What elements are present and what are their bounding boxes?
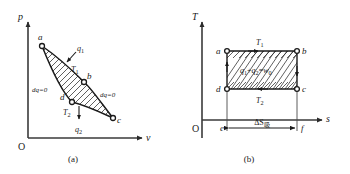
panel-b-point-c-label: c: [302, 84, 306, 94]
panel-a-T1-label: T1: [71, 65, 79, 75]
panel-b-point-d: [225, 87, 230, 92]
panel-b-origin-label: O: [192, 123, 199, 134]
panel-a-q1-label: q1: [77, 44, 84, 54]
panel-b-point-f-label: f: [301, 123, 305, 133]
panel-b-T1-label: T1: [256, 38, 264, 48]
panel-b-point-a-label: a: [216, 46, 221, 56]
panel-b-y-axis-label: T: [192, 11, 199, 22]
panel-a-group: p v O: [17, 0, 151, 174]
panel-b-group: T s O: [192, 11, 330, 164]
panel-a-point-b-label: b: [87, 71, 92, 81]
panel-b-energy-balance-label: q1+q2=w0: [240, 66, 272, 76]
panel-a-point-d: [70, 100, 75, 105]
panel-b-caption: (b): [244, 154, 255, 164]
panel-a-T2-label: T2: [63, 108, 71, 118]
panel-b-point-e-label: e: [220, 123, 224, 133]
panel-b-T2-label: T2: [256, 96, 264, 106]
panel-b-point-c: [295, 87, 300, 92]
panel-b-point-a: [225, 49, 230, 54]
panel-a-q1-arrow: [67, 52, 76, 62]
panel-a-point-c: [111, 116, 116, 121]
panel-a-x-axis-label: v: [146, 132, 151, 143]
panel-a-point-d-label: d: [60, 92, 65, 102]
panel-a-point-c-label: c: [117, 115, 121, 125]
panel-b-point-b-label: b: [302, 46, 307, 56]
panel-b-point-d-label: d: [216, 84, 221, 94]
panel-a-q2-label: q2: [75, 125, 82, 135]
panel-b-x-axis-label: s: [326, 113, 330, 124]
figure-canvas: p v O: [0, 0, 350, 174]
thermodynamics-figure: p v O: [0, 0, 350, 174]
panel-a-process-bc-adiabat: [84, 82, 113, 118]
panel-a-point-a: [40, 44, 45, 49]
panel-a-adiabat-right-label: dq=0: [100, 91, 116, 99]
panel-a-adiabat-left-label: dq=0: [32, 86, 48, 94]
panel-b-point-b: [295, 49, 300, 54]
panel-a-point-b: [82, 80, 87, 85]
panel-a-caption: (a): [68, 154, 78, 164]
panel-a-origin-label: O: [18, 141, 25, 152]
panel-a-y-axis-label: p: [17, 11, 23, 22]
panel-a-point-a-label: a: [38, 32, 43, 42]
